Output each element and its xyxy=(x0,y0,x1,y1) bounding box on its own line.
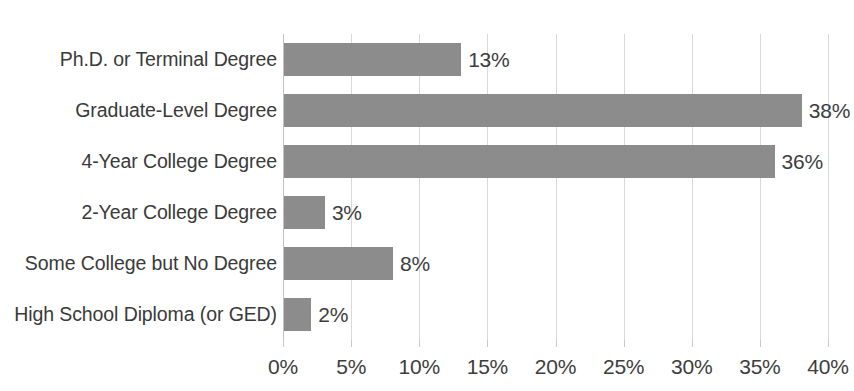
bar-chart: 0%5%10%15%20%25%30%35%40% Ph.D. or Termi… xyxy=(0,0,854,391)
gridline xyxy=(556,34,557,340)
category-label: Graduate-Level Degree xyxy=(75,101,277,121)
x-axis-tick xyxy=(487,340,488,347)
bar xyxy=(284,298,311,331)
x-axis-tick-label: 20% xyxy=(535,355,576,379)
gridline xyxy=(419,34,420,340)
gridline xyxy=(351,34,352,340)
category-label: Ph.D. or Terminal Degree xyxy=(60,50,277,70)
bar-value-label: 13% xyxy=(468,49,509,70)
x-axis-tick xyxy=(556,340,557,347)
x-axis-tick-label: 10% xyxy=(399,355,440,379)
category-label: High School Diploma (or GED) xyxy=(14,305,277,325)
gridline xyxy=(692,34,693,340)
bar-value-label: 38% xyxy=(809,100,850,121)
x-axis-tick xyxy=(419,340,420,347)
x-axis-tick xyxy=(692,340,693,347)
x-axis-tick-label: 0% xyxy=(268,355,298,379)
gridline xyxy=(828,34,829,340)
bar xyxy=(284,43,461,76)
bar-value-label: 36% xyxy=(782,151,823,172)
x-axis-tick xyxy=(283,340,284,347)
x-axis-tick-label: 25% xyxy=(603,355,644,379)
bar-value-label: 3% xyxy=(332,202,362,223)
gridline xyxy=(624,34,625,340)
value-axis-line xyxy=(283,34,284,340)
x-axis-tick-label: 15% xyxy=(467,355,508,379)
bar xyxy=(284,145,775,178)
x-axis-tick-label: 30% xyxy=(671,355,712,379)
bar-value-label: 2% xyxy=(318,304,348,325)
x-axis-tick xyxy=(828,340,829,347)
x-axis-tick xyxy=(624,340,625,347)
gridline xyxy=(760,34,761,340)
category-label: 4-Year College Degree xyxy=(81,152,277,172)
bar xyxy=(284,196,325,229)
x-axis-tick-label: 5% xyxy=(336,355,366,379)
x-axis-tick xyxy=(760,340,761,347)
bar xyxy=(284,94,802,127)
x-axis-tick xyxy=(351,340,352,347)
x-axis-tick-label: 35% xyxy=(739,355,780,379)
x-axis-tick-label: 40% xyxy=(807,355,848,379)
category-label: 2-Year College Degree xyxy=(81,203,277,223)
gridline xyxy=(487,34,488,340)
bar-value-label: 8% xyxy=(400,253,430,274)
category-label: Some College but No Degree xyxy=(25,254,277,274)
bar xyxy=(284,247,393,280)
